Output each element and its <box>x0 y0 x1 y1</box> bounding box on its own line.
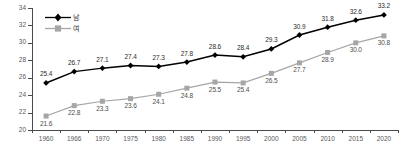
y-tick <box>28 8 32 9</box>
x-tick <box>370 130 371 133</box>
line-chart: 2022242628303234 19601966197019751980198… <box>0 0 404 155</box>
data-label: 30.8 <box>378 40 390 47</box>
data-label: 25.5 <box>209 87 221 94</box>
data-label: 26.5 <box>265 78 277 85</box>
x-tick <box>229 130 230 133</box>
y-tick-label: 22 <box>0 109 26 116</box>
legend-label-female: 여 <box>73 24 79 33</box>
data-label: 22.8 <box>68 110 80 117</box>
data-label: 23.6 <box>124 103 136 110</box>
y-tick <box>28 60 32 61</box>
data-point-marker <box>99 65 105 71</box>
data-point-marker <box>241 80 246 85</box>
data-label: 27.4 <box>124 54 136 61</box>
data-label: 24.8 <box>181 93 193 100</box>
x-tick <box>88 130 89 133</box>
data-label: 25.4 <box>40 71 52 78</box>
data-point-marker <box>184 86 189 91</box>
data-label: 24.1 <box>153 99 165 106</box>
legend-label-male: 남 <box>73 13 79 22</box>
data-label: 26.7 <box>68 60 80 67</box>
x-tick <box>314 130 315 133</box>
data-point-marker <box>100 99 105 104</box>
y-tick <box>28 95 32 96</box>
data-label: 31.8 <box>321 16 333 23</box>
y-tick <box>28 78 32 79</box>
data-label: 32.6 <box>350 9 362 16</box>
data-label: 27.8 <box>181 51 193 58</box>
y-tick <box>28 43 32 44</box>
y-tick-label: 34 <box>0 5 26 12</box>
x-tick <box>398 130 399 133</box>
data-label: 30.9 <box>293 24 305 31</box>
x-tick <box>173 130 174 133</box>
data-point-marker <box>184 59 190 65</box>
x-tick <box>257 130 258 133</box>
y-axis-line <box>32 8 33 130</box>
data-label: 23.3 <box>96 106 108 113</box>
y-tick <box>28 113 32 114</box>
x-tick <box>116 130 117 133</box>
x-tick <box>201 130 202 133</box>
data-point-marker <box>212 52 218 58</box>
data-point-marker <box>381 33 386 38</box>
y-tick-label: 30 <box>0 39 26 46</box>
y-tick <box>28 25 32 26</box>
data-label: 33.2 <box>378 3 390 10</box>
y-tick-label: 28 <box>0 57 26 64</box>
x-tick <box>342 130 343 133</box>
data-point-marker <box>268 46 274 52</box>
data-point-marker <box>72 103 77 108</box>
data-label: 28.9 <box>321 57 333 64</box>
data-point-marker <box>353 40 358 45</box>
y-tick-label: 32 <box>0 22 26 29</box>
data-label: 29.3 <box>265 37 277 44</box>
black-diamond-line-marker-icon <box>45 12 71 23</box>
x-tick <box>145 130 146 133</box>
data-point-marker <box>297 60 302 65</box>
data-point-marker <box>156 92 161 97</box>
x-tick-label: 2020 <box>364 136 404 143</box>
data-point-marker <box>128 63 134 69</box>
data-label: 21.6 <box>40 121 52 128</box>
y-tick-label: 20 <box>0 127 26 134</box>
data-label: 28.6 <box>209 44 221 51</box>
data-label: 27.3 <box>153 55 165 62</box>
x-tick <box>285 130 286 133</box>
data-point-marker <box>297 32 303 38</box>
data-point-marker <box>44 114 49 119</box>
data-label: 25.4 <box>237 87 249 94</box>
data-point-marker <box>240 54 246 60</box>
data-point-marker <box>156 63 162 69</box>
data-point-marker <box>325 50 330 55</box>
x-tick <box>60 130 61 133</box>
data-point-marker <box>353 17 359 23</box>
data-point-marker <box>128 96 133 101</box>
y-tick-label: 24 <box>0 92 26 99</box>
gray-square-line-marker-icon <box>45 23 71 34</box>
data-point-marker <box>43 80 49 86</box>
data-point-marker <box>213 80 218 85</box>
data-point-marker <box>71 69 77 75</box>
data-label: 27.1 <box>96 57 108 64</box>
data-label: 27.7 <box>293 67 305 74</box>
data-point-marker <box>269 71 274 76</box>
data-label: 28.4 <box>237 45 249 52</box>
y-tick-label: 26 <box>0 74 26 81</box>
data-label: 30.0 <box>350 47 362 54</box>
data-point-marker <box>325 24 331 30</box>
x-axis-line <box>32 130 398 131</box>
data-point-marker <box>381 12 387 18</box>
x-tick <box>32 130 33 133</box>
